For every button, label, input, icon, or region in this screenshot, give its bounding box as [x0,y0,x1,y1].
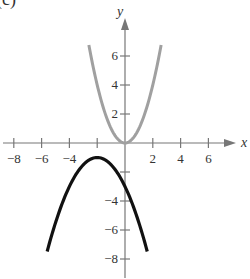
y-tick-label: −6 [104,222,118,237]
x-axis-arrow-icon [224,139,236,147]
x-tick-label: −6 [35,151,49,166]
x-tick-label: 6 [205,151,212,166]
y-axis-label: y [115,4,124,19]
y-tick-label: 6 [112,48,119,63]
x-axis-label: x [240,135,248,150]
x-tick-label: −4 [62,151,76,166]
plot-area: xy−8−6−4246642−4−6−8 [0,0,250,279]
x-tick-label: −8 [7,151,21,166]
y-tick-label: −8 [104,251,118,266]
y-tick-label: 4 [112,77,119,92]
x-tick-label: 2 [150,151,157,166]
y-tick-label: −4 [104,193,118,208]
y-axis-arrow-icon [121,18,129,30]
chart-panel: (c) xy−8−6−4246642−4−6−8 [0,0,250,279]
curve-black-parabola [47,158,147,252]
y-tick-label: 2 [112,106,119,121]
x-tick-label: 4 [177,151,184,166]
